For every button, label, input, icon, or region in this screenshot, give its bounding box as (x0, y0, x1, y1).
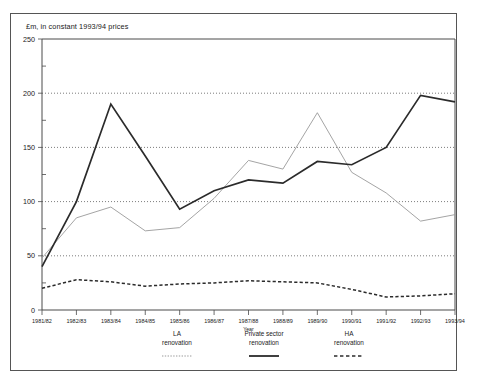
x-tick-label: 1990/91 (342, 318, 362, 324)
x-tick-label: 1993/94 (445, 318, 465, 324)
x-tick-label: 1991/92 (376, 318, 396, 324)
x-tick-label: 1992/93 (411, 318, 431, 324)
y-tick-label: 150 (23, 143, 35, 152)
x-tick-label: 1985/86 (170, 318, 190, 324)
chart-legend: LArenovationPrivate sectorrenovationHAre… (162, 330, 364, 356)
x-tick-label: 1989/90 (307, 318, 327, 324)
y-tick-label: 200 (23, 89, 35, 98)
line-chart-canvas: 050100150200250 1981/821982/831983/84198… (0, 0, 489, 385)
plot-area-frame (42, 39, 455, 310)
y-tick-label: 250 (23, 35, 35, 44)
series-line-private-sector-renovation (42, 95, 455, 266)
legend-entry-label-line1: LA (173, 330, 182, 337)
x-tick-label: 1983/84 (101, 318, 121, 324)
legend-entry: Private sectorrenovation (244, 330, 284, 356)
x-tick-label: 1987/88 (239, 318, 259, 324)
series-line-la-renovation (42, 113, 455, 258)
x-tick-label: 1984/85 (135, 318, 155, 324)
legend-entry-label-line2: renovation (334, 339, 364, 346)
gridlines-group (42, 93, 455, 256)
legend-entry: HArenovation (334, 330, 364, 356)
series-line-ha-renovation (42, 280, 455, 297)
x-tick-label: 1981/82 (32, 318, 52, 324)
figure-root: £m, in constant 1993/94 prices 050100150… (0, 0, 489, 385)
legend-entry-label-line2: renovation (249, 339, 279, 346)
x-tick-label: 1982/83 (66, 318, 86, 324)
x-tickmarks-group (42, 310, 455, 315)
legend-entry-label-line2: renovation (162, 339, 192, 346)
x-axis-labels-group: 1981/821982/831983/841984/851985/861986/… (32, 318, 465, 324)
legend-entry-label-line1: HA (345, 330, 355, 337)
legend-entry-label-line1: Private sector (244, 330, 284, 337)
x-tick-label: 1988/89 (273, 318, 293, 324)
x-tick-label: 1986/87 (204, 318, 224, 324)
data-series-group (42, 95, 455, 297)
legend-entry: LArenovation (162, 330, 192, 356)
y-tick-label: 100 (23, 197, 35, 206)
y-axis-labels-group: 050100150200250 (23, 35, 35, 315)
y-tick-label: 0 (31, 306, 35, 315)
y-tick-label: 50 (27, 251, 35, 260)
